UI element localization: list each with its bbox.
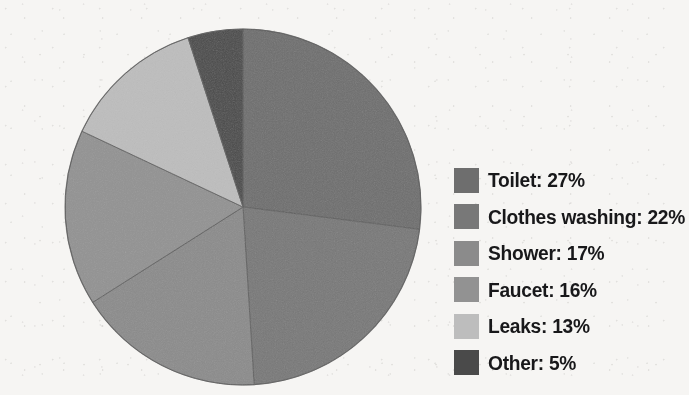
- legend-color-swatch: [454, 204, 479, 229]
- pie-slice: [243, 207, 420, 385]
- legend-item: Clothes washing: 22%: [454, 199, 689, 236]
- legend-item-label: Shower: 17%: [488, 243, 604, 263]
- legend-color-swatch: [454, 350, 479, 375]
- legend-color-swatch: [454, 277, 479, 302]
- legend-item-label: Toilet: 27%: [488, 170, 585, 190]
- chart-legend: Toilet: 27%Clothes washing: 22%Shower: 1…: [454, 162, 689, 381]
- legend-item: Shower: 17%: [454, 235, 689, 272]
- legend-item: Leaks: 13%: [454, 308, 689, 345]
- pie-slice: [243, 29, 421, 229]
- legend-item-label: Faucet: 16%: [488, 280, 597, 300]
- legend-item-label: Leaks: 13%: [488, 316, 590, 336]
- legend-item: Faucet: 16%: [454, 272, 689, 309]
- pie-slice-group: [65, 29, 421, 385]
- legend-item: Other: 5%: [454, 345, 689, 382]
- legend-item: Toilet: 27%: [454, 162, 689, 199]
- water-use-pie-chart-figure: Toilet: 27%Clothes washing: 22%Shower: 1…: [40, 16, 626, 379]
- legend-item-label: Clothes washing: 22%: [488, 207, 685, 227]
- legend-color-swatch: [454, 314, 479, 339]
- legend-color-swatch: [454, 241, 479, 266]
- legend-item-label: Other: 5%: [488, 353, 576, 373]
- legend-color-swatch: [454, 168, 479, 193]
